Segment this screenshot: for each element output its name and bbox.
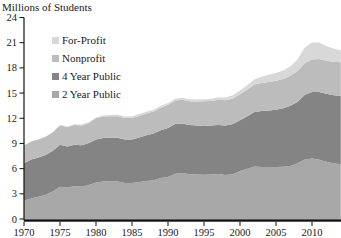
legend-swatch-4-year-public	[52, 73, 59, 80]
x-tick-label: 1970	[14, 227, 35, 238]
legend-item-nonprofit: Nonprofit	[52, 49, 121, 67]
x-tick-label: 2000	[230, 227, 251, 238]
y-tick-label: 12	[7, 113, 18, 124]
y-tick-label: 21	[7, 37, 18, 48]
y-tick-label: 0	[12, 214, 17, 225]
legend-item-4-year-public: 4 Year Public	[52, 67, 121, 85]
legend-label-4-year-public: 4 Year Public	[62, 71, 121, 82]
x-tick-label: 2010	[302, 227, 323, 238]
chart-container: Millions of Students 0369121518212419701…	[0, 0, 341, 237]
legend-swatch-2-year-public	[52, 91, 59, 98]
x-tick-label: 1990	[158, 227, 179, 238]
legend: For-ProfitNonprofit4 Year Public2 Year P…	[52, 31, 121, 103]
y-tick-label: 3	[12, 188, 17, 199]
x-tick-label: 1985	[122, 227, 143, 238]
legend-item-2-year-public: 2 Year Public	[52, 85, 121, 103]
x-tick-label: 1980	[86, 227, 107, 238]
y-tick-label: 6	[12, 163, 17, 174]
x-tick-label: 1995	[194, 227, 215, 238]
y-tick-label: 18	[7, 62, 18, 73]
legend-swatch-nonprofit	[52, 55, 59, 62]
y-tick-label: 9	[12, 138, 17, 149]
x-axis	[24, 219, 341, 221]
legend-label-2-year-public: 2 Year Public	[62, 89, 121, 100]
legend-item-for-profit: For-Profit	[52, 31, 121, 49]
legend-label-nonprofit: Nonprofit	[62, 53, 105, 64]
x-tick-label: 2005	[266, 227, 287, 238]
legend-swatch-for-profit	[52, 37, 59, 44]
y-tick-label: 15	[7, 88, 18, 99]
x-tick-label: 1975	[50, 227, 71, 238]
legend-label-for-profit: For-Profit	[62, 35, 106, 46]
y-tick-label: 24	[7, 12, 18, 23]
